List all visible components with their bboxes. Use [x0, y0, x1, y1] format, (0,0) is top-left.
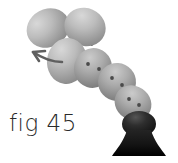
egg-dot: [97, 67, 101, 71]
egg-dot: [86, 62, 90, 66]
figure-canvas: [0, 0, 178, 163]
egg-dot: [137, 103, 141, 107]
egg-dot: [127, 97, 131, 101]
egg-dot: [110, 76, 114, 80]
egg-dot: [120, 83, 124, 87]
figure-illustration: fig 45: [0, 0, 178, 163]
